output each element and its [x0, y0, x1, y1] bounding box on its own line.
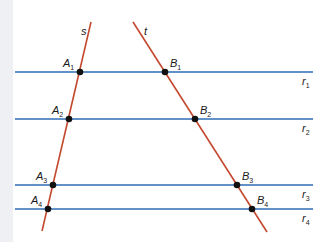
line-s [42, 22, 91, 231]
point-B4 [249, 206, 256, 213]
label-B1: B1 [170, 57, 181, 71]
label-A3: A3 [35, 170, 47, 184]
line-t [133, 22, 267, 232]
label-B4: B4 [257, 194, 268, 208]
point-A1 [77, 69, 84, 76]
diagram-canvas: r1r2r3r4stA1A2A3A4B1B2B3B4 [0, 0, 328, 242]
point-B1 [162, 69, 169, 76]
label-B2: B2 [200, 104, 211, 118]
label-r2: r2 [302, 122, 310, 136]
label-A4: A4 [30, 194, 42, 208]
label-r3: r3 [302, 188, 310, 202]
point-A3 [50, 182, 57, 189]
parallel-lines-figure: r1r2r3r4stA1A2A3A4B1B2B3B4 [0, 0, 328, 242]
point-A2 [66, 116, 73, 123]
label-A1: A1 [62, 57, 74, 71]
label-r1: r1 [302, 75, 310, 89]
label-r4: r4 [302, 212, 310, 226]
point-B3 [234, 182, 241, 189]
label-t: t [144, 25, 148, 37]
point-A4 [45, 206, 52, 213]
label-A2: A2 [51, 104, 63, 118]
point-B2 [192, 116, 199, 123]
label-s: s [81, 25, 87, 37]
label-B3: B3 [242, 170, 253, 184]
